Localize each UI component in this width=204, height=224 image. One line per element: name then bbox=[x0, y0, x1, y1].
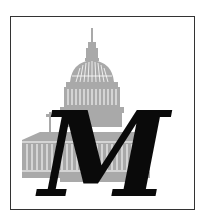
logo-artwork: M bbox=[0, 0, 204, 224]
logo-letter: M bbox=[35, 85, 173, 224]
